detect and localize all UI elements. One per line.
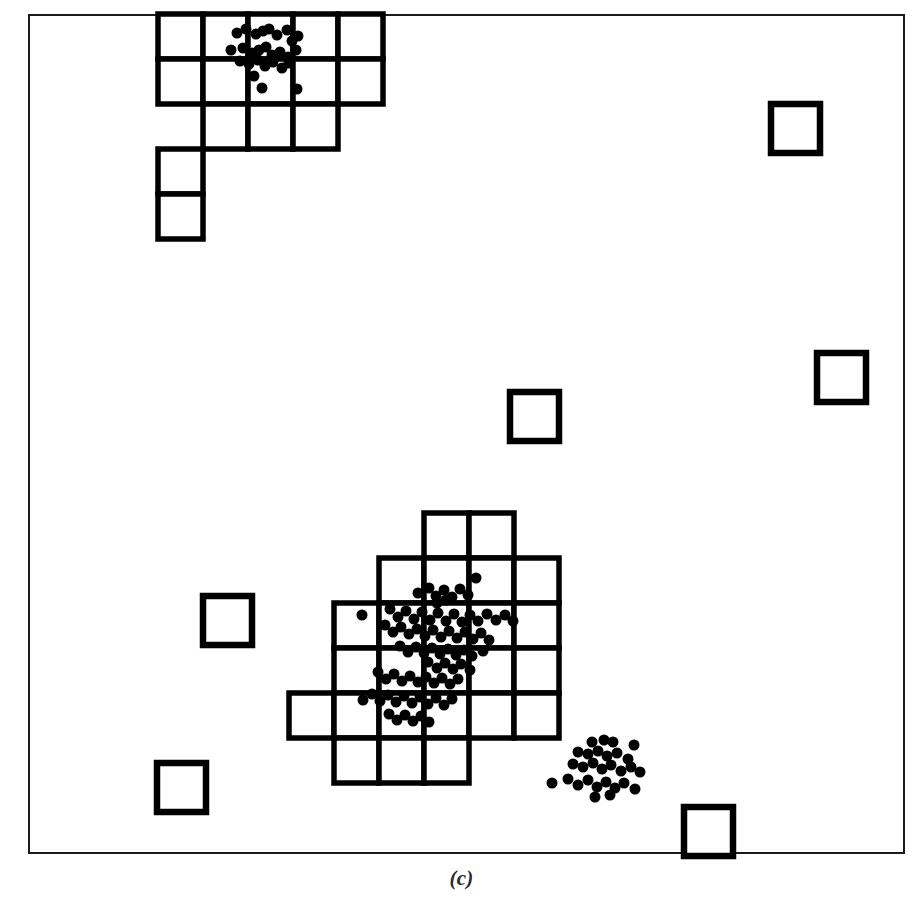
figure-panel-c: (c)	[0, 0, 923, 918]
figure-caption: (c)	[0, 866, 923, 891]
plot-frame	[28, 14, 905, 854]
